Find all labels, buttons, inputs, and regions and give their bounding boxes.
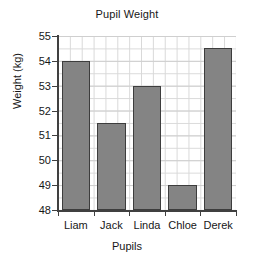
y-axis-tick-label: 51 <box>3 129 51 141</box>
x-axis-tick-label: Jack <box>100 219 123 231</box>
y-axis-tick-label: 52 <box>3 105 51 117</box>
bar <box>97 123 125 210</box>
y-axis-tick-mark <box>52 86 57 87</box>
x-axis-tick-mark <box>236 211 237 216</box>
x-axis-tick-label: Derek <box>204 219 233 231</box>
bar <box>204 48 232 210</box>
x-axis-tick-mark <box>200 211 201 216</box>
y-axis-tick-label: 49 <box>3 179 51 191</box>
y-axis-tick-mark <box>52 160 57 161</box>
bar <box>168 185 196 210</box>
bar-series <box>58 36 236 210</box>
x-axis-tick-labels: LiamJackLindaChloeDerek <box>50 219 246 235</box>
y-axis-tick-mark <box>52 111 57 112</box>
y-axis-tick-mark <box>52 61 57 62</box>
x-axis-tick-mark <box>165 211 166 216</box>
x-axis-tick-label: Liam <box>64 219 88 231</box>
y-axis-tick-mark <box>52 36 57 37</box>
y-axis-tick-mark <box>52 135 57 136</box>
y-axis-tick-label: 54 <box>3 55 51 67</box>
x-axis-tick-label: Chloe <box>168 219 197 231</box>
bar-chart-figure: Pupil Weight Weight (kg) 484950515253545… <box>0 0 254 263</box>
y-axis-tick-label: 48 <box>3 204 51 216</box>
x-axis-tick-mark <box>94 211 95 216</box>
y-axis-tick-labels: 4849505152535455 <box>0 0 51 263</box>
y-axis-tick-mark <box>52 210 57 211</box>
x-axis-tick-mark <box>129 211 130 216</box>
y-axis-tick-label: 53 <box>3 80 51 92</box>
y-axis-tick-mark <box>52 185 57 186</box>
bar <box>62 61 90 210</box>
bar <box>133 86 161 210</box>
y-axis-tick-label: 55 <box>3 30 51 42</box>
x-axis-title: Pupils <box>0 240 254 252</box>
x-axis-line <box>57 210 237 212</box>
x-axis-tick-label: Linda <box>134 219 161 231</box>
x-axis-tick-mark <box>58 211 59 216</box>
y-axis-tick-label: 50 <box>3 154 51 166</box>
